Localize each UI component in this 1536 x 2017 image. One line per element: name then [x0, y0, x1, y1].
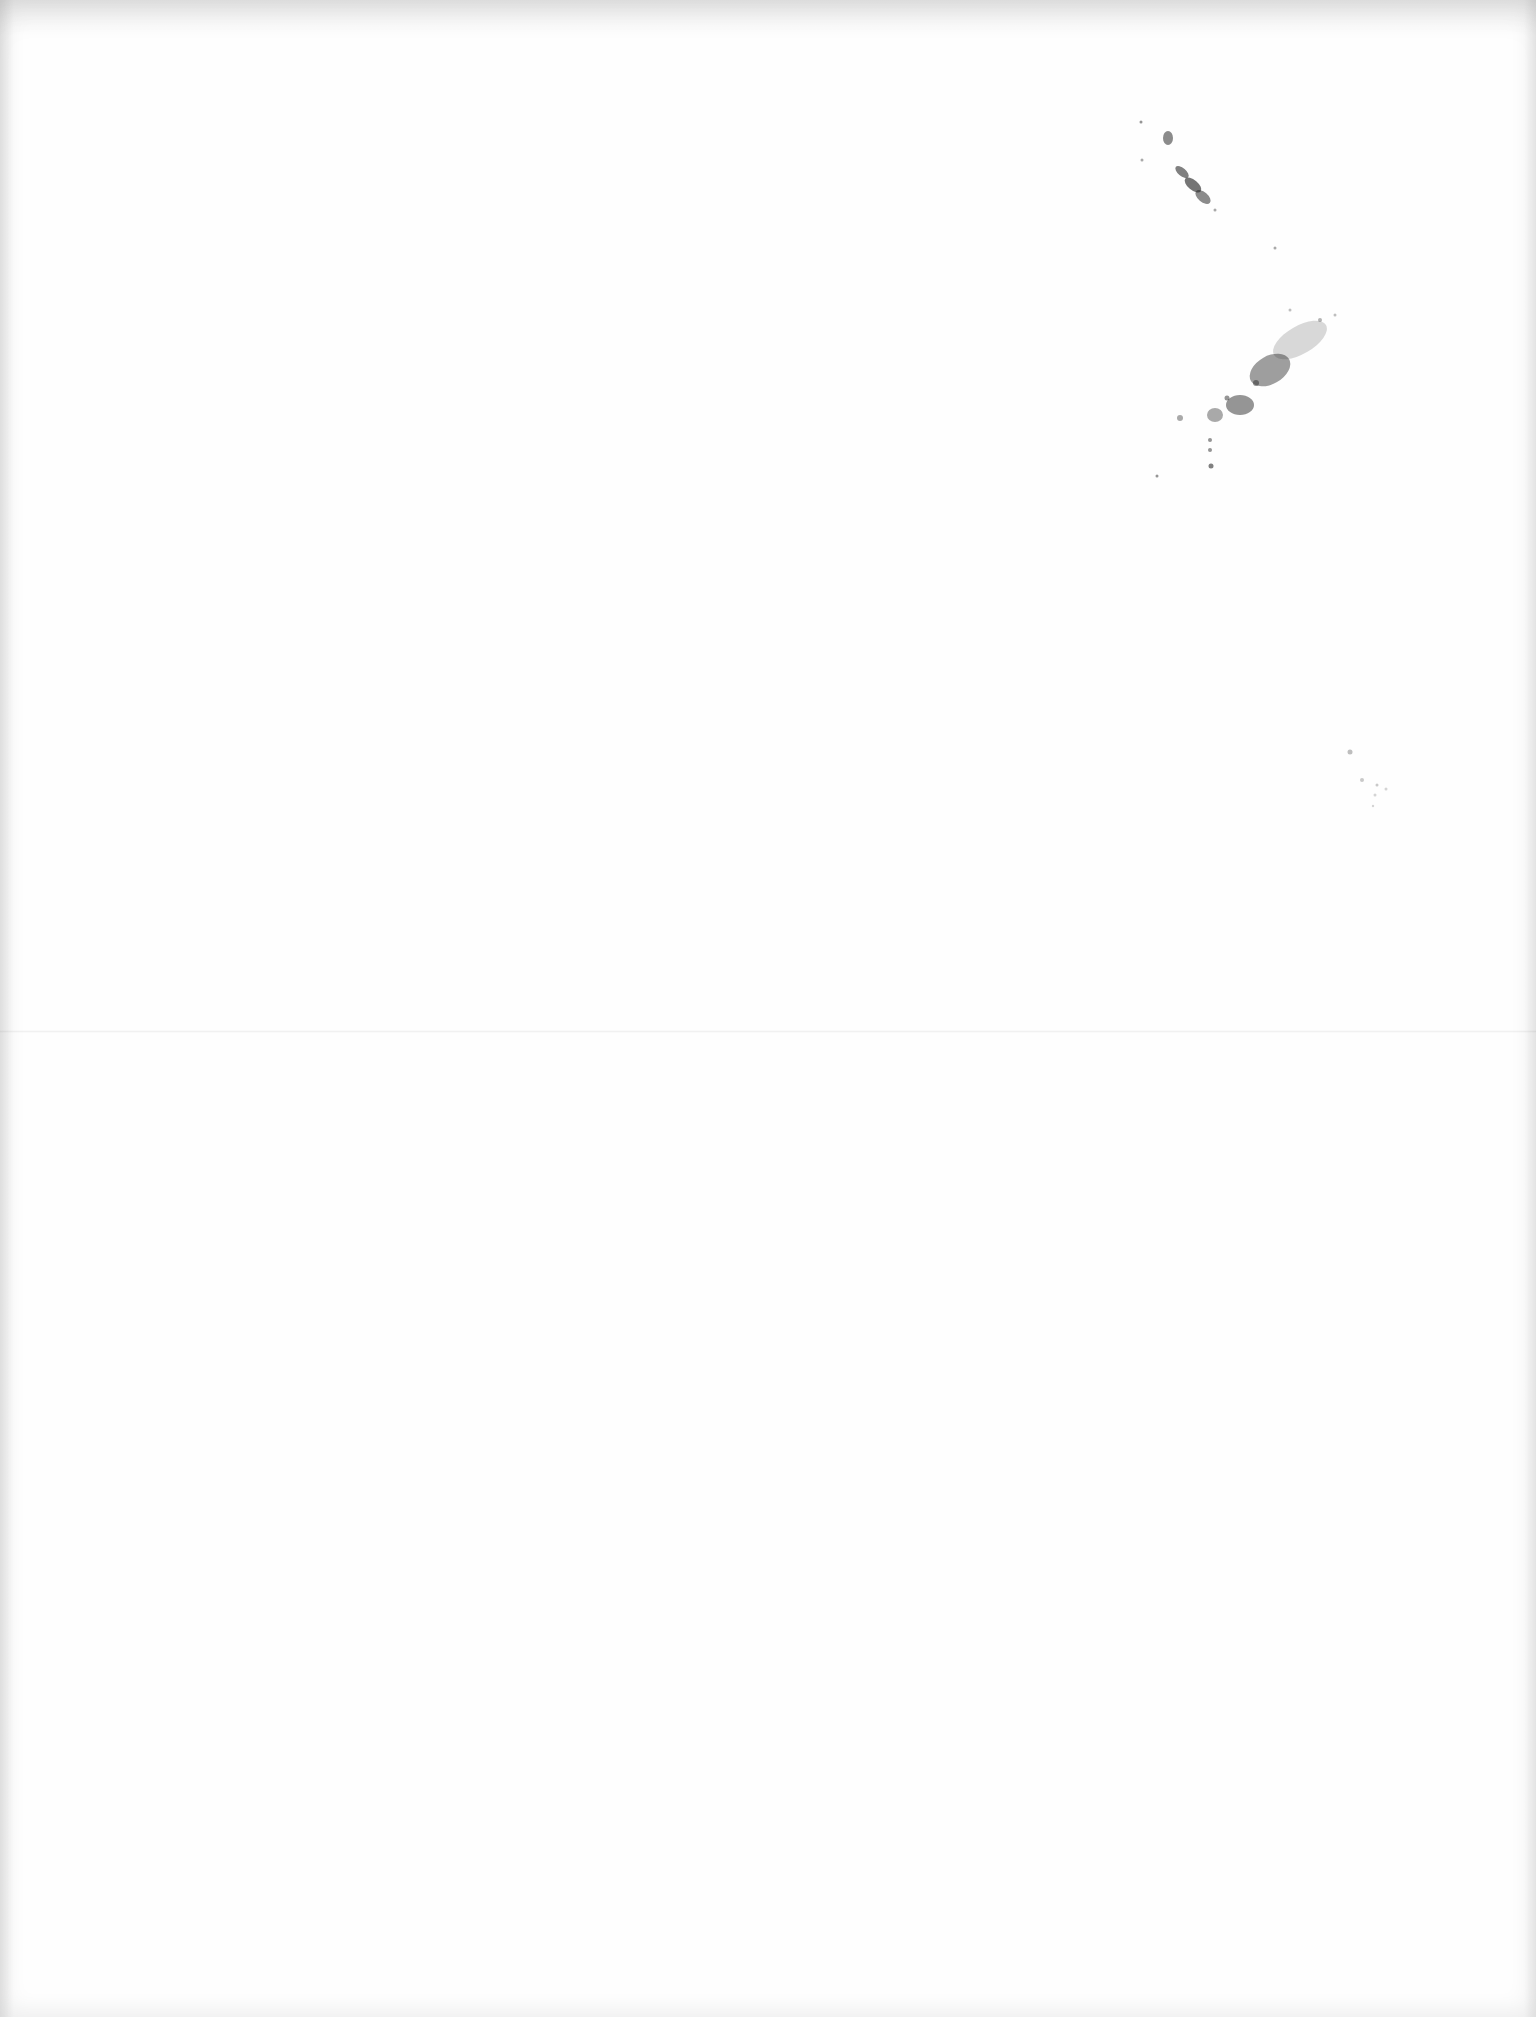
blank-scanned-page [0, 0, 1536, 2017]
ink-speckle-marks [0, 0, 1536, 2017]
speckle-streak-upper [1140, 121, 1277, 250]
page-text [0, 0, 1, 1]
speckle-faint-right [1348, 750, 1388, 808]
speckle-cluster-lower [1156, 309, 1337, 478]
